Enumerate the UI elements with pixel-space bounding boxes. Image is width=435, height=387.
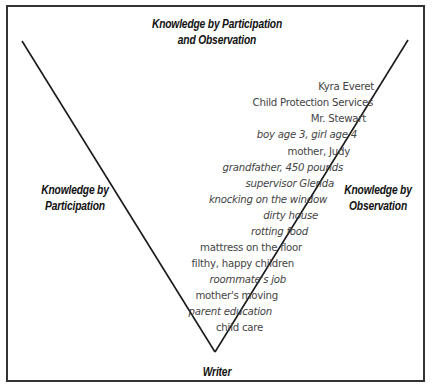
list-item: child care [216, 321, 263, 334]
list-item: mother, Judy [288, 145, 351, 158]
left-heading: Knowledge by Participation [15, 182, 135, 214]
list-item: boy age 3, girl age 4 [257, 128, 357, 141]
list-item: rotting food [251, 225, 308, 238]
list-item: parent education [189, 305, 272, 318]
writer-label: Writer [176, 364, 258, 380]
right-heading: Knowledge by Observation [329, 182, 427, 214]
right-heading-line2: Observation [329, 198, 427, 214]
list-item: Mr. Stewart [311, 112, 366, 125]
left-heading-line2: Participation [15, 198, 135, 214]
top-heading: Knowledge by Participation and Observati… [119, 16, 316, 48]
top-heading-line2: and Observation [119, 32, 316, 48]
list-item: Child Protection Services [253, 96, 373, 109]
list-item: filthy, happy children [192, 257, 294, 270]
list-item: mother's moving [195, 289, 278, 302]
list-item: dirty house [263, 209, 318, 222]
list-item: roommate's job [210, 273, 286, 286]
top-heading-line1: Knowledge by Participation [119, 16, 316, 32]
list-item: supervisor Glenda [246, 177, 334, 190]
right-heading-line1: Knowledge by [329, 182, 427, 198]
left-heading-line1: Knowledge by [15, 182, 135, 198]
list-item: Kyra Everet [318, 80, 374, 93]
list-item: grandfather, 450 pounds [223, 161, 343, 174]
list-item: mattress on the floor [200, 241, 302, 254]
list-item: knocking on the window [209, 193, 327, 206]
